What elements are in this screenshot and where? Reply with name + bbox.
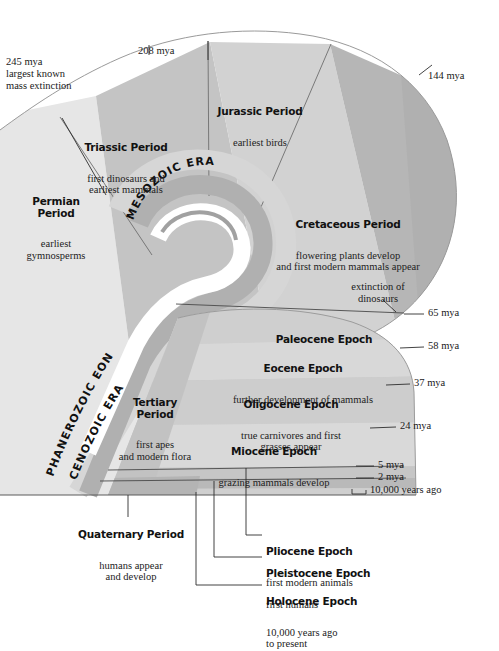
tick-24mya: 24 mya [400,420,431,431]
tick-65mya: 65 mya [428,307,459,318]
label-paleocene-head: Paleocene Epoch [234,334,414,346]
tick-5mya: 5 mya [378,459,404,470]
label-holocene-sub: 10,000 years ago to present [266,627,456,651]
label-miocene-head: Miocene Epoch [186,446,362,458]
label-permian-head: Permian Period [4,196,108,220]
tick-208mya: 208 mya [138,45,174,56]
tick-2mya: 2 mya [378,471,404,482]
label-miocene: Miocene Epoch grazing mammals develop [186,428,362,506]
label-cretaceous-head: Cretaceous Period [242,219,454,231]
label-holocene: Holocene Epoch 10,000 years ago to prese… [266,578,456,651]
label-tertiary-head: Tertiary Period [112,397,198,421]
label-permian-sub: earliest gymnosperms [4,238,108,262]
tick-37mya: 37 mya [414,377,445,388]
label-jurassic: Jurassic Period earliest birds [190,88,330,166]
label-cretaceous-sub: flowering plants develop and first moder… [242,250,454,274]
label-quaternary-head: Quaternary Period [56,529,206,541]
label-jurassic-head: Jurassic Period [190,106,330,118]
label-holocene-head: Holocene Epoch [266,596,456,608]
label-eocene-head: Eocene Epoch [198,363,408,375]
label-jurassic-sub: earliest birds [190,137,330,149]
label-oligocene-head: Oligocene Epoch [196,399,386,411]
label-triassic-head: Triassic Period [62,142,190,154]
annotation-extinction-dinosaurs: extinction of dinosaurs [330,281,426,305]
label-miocene-sub: grazing mammals develop [186,477,362,489]
annotation-245-extinction: 245 mya largest known mass extinction [6,56,72,91]
label-quaternary-sub: humans appear and develop [56,560,206,584]
tick-144mya: 144 mya [428,70,464,81]
label-permian: Permian Period earliest gymnosperms [4,178,108,280]
label-quaternary: Quaternary Period humans appear and deve… [56,511,206,601]
tick-10000-years: 10,000 years ago [370,484,441,495]
tick-58mya: 58 mya [428,340,459,351]
label-cretaceous: Cretaceous Period flowering plants devel… [242,201,454,291]
